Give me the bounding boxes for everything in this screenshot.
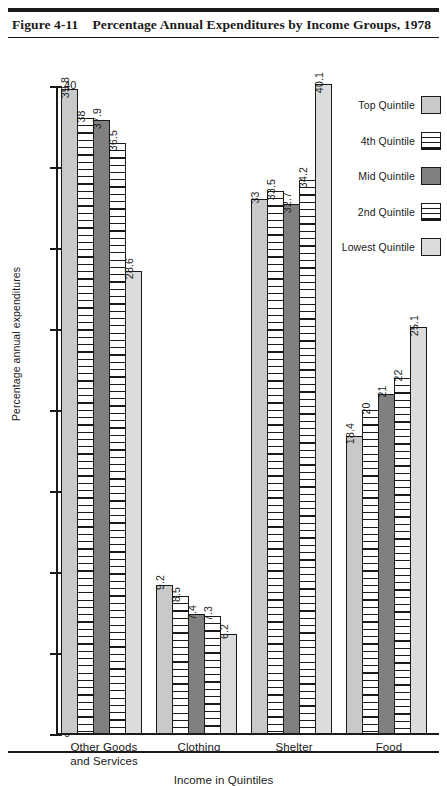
bar: 33.5: [267, 191, 284, 734]
bar-value-label: 7.4: [186, 605, 197, 620]
footer-rule: [8, 751, 439, 753]
legend-swatch: [421, 203, 441, 221]
bar: 22: [394, 378, 411, 734]
bar-value-label: 32.7: [281, 192, 292, 213]
bar: 40.1: [315, 84, 332, 734]
bar-value-label: 28.6: [123, 258, 134, 279]
bar: 39.8: [61, 89, 78, 734]
bar-value-label: 33: [249, 191, 260, 203]
bar: 6.2: [220, 634, 237, 734]
bar-value-label: 9.2: [154, 575, 165, 590]
bar: 25.1: [410, 327, 427, 734]
bar-value-label: 22: [392, 370, 403, 382]
legend-item-label: 2nd Quintile: [358, 206, 415, 218]
bar-value-label: 6.2: [218, 624, 229, 639]
legend-swatch: [421, 132, 441, 150]
legend-item: Lowest Quintile: [331, 237, 441, 257]
legend-swatch: [421, 167, 441, 185]
bar: 32.7: [283, 204, 300, 734]
bar-value-label: 34.2: [297, 167, 308, 188]
x-category-label-line: and Services: [47, 754, 161, 768]
bar-value-label: 33.5: [265, 179, 276, 200]
bar-value-label: 37.9: [91, 107, 102, 128]
bar-group: 3333.532.734.240.1: [251, 86, 337, 734]
bar: 36.5: [109, 143, 126, 734]
bar: 37.9: [93, 120, 110, 734]
bar-value-label: 40.1: [313, 72, 324, 93]
bar-value-label: 7.3: [202, 606, 213, 621]
bar: 9.2: [156, 585, 173, 734]
bar-group: 9.28.57.47.36.2: [156, 86, 242, 734]
legend-item: Top Quintile: [331, 95, 441, 115]
legend-swatch: [421, 238, 441, 256]
bar: 7.4: [188, 614, 205, 734]
bar-group: 39.83837.936.528.6: [61, 86, 147, 734]
bar-value-label: 25.1: [408, 315, 419, 336]
legend-item-label: Lowest Quintile: [342, 241, 415, 253]
bar: 18.4: [346, 436, 363, 734]
legend-item: 2nd Quintile: [331, 202, 441, 222]
plot-area: Percentage annual expenditures 051015202…: [0, 38, 447, 759]
bar-value-label: 38: [75, 110, 86, 122]
bar-value-label: 18.4: [344, 423, 355, 444]
bar: 21: [378, 394, 395, 734]
bar-value-label: 8.5: [170, 587, 181, 602]
bar-value-label: 20: [360, 402, 371, 414]
legend-item-label: Top Quintile: [358, 99, 415, 111]
bar: 28.6: [125, 271, 142, 734]
y-axis-title: Percentage annual expenditures: [10, 244, 22, 444]
bar-value-label: 21: [376, 386, 387, 398]
figure-number: Figure 4-11: [12, 17, 78, 33]
bar: 20: [362, 410, 379, 734]
legend-item: Mid Quintile: [331, 166, 441, 186]
legend-item-label: 4th Quintile: [361, 135, 415, 147]
y-tick-mark: [50, 734, 62, 736]
figure-title: Percentage Annual Expenditures by Income…: [92, 17, 431, 33]
x-axis-title: Income in Quintiles: [0, 774, 447, 786]
figure-header: Figure 4-11 Percentage Annual Expenditur…: [0, 12, 447, 37]
bar-value-label: 39.8: [59, 77, 70, 98]
legend: Top Quintile4th QuintileMid Quintile2nd …: [331, 95, 441, 273]
bar: 34.2: [299, 180, 316, 734]
bar-value-label: 36.5: [107, 130, 118, 151]
legend-item-label: Mid Quintile: [358, 170, 415, 182]
legend-swatch: [421, 96, 441, 114]
bar: 33: [251, 199, 268, 734]
bar: 38: [77, 118, 94, 734]
legend-item: 4th Quintile: [331, 131, 441, 151]
